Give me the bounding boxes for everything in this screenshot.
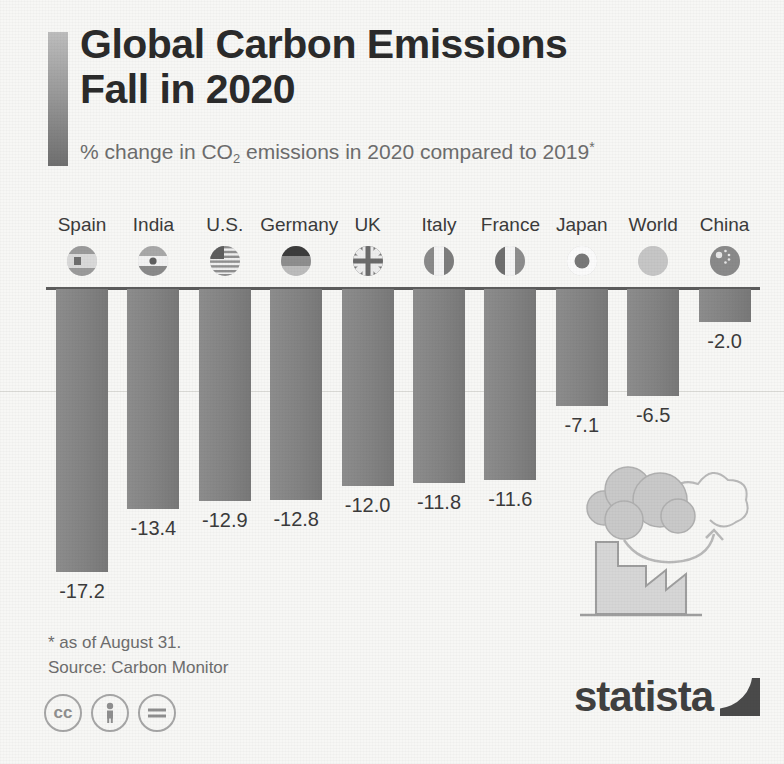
bar[interactable]: [484, 289, 536, 480]
country-label: Spain: [46, 214, 118, 236]
italy-flag-icon: [424, 246, 454, 276]
country-label: Germany: [260, 214, 332, 236]
bar[interactable]: [270, 289, 322, 500]
bar-value-label: -13.4: [117, 517, 189, 540]
bar-value-label: -2.0: [689, 330, 761, 353]
china-flag-icon: [710, 246, 740, 276]
statista-wordmark: statista: [574, 676, 713, 718]
bar-value-label: -17.2: [46, 580, 118, 603]
country-label: Japan: [546, 214, 618, 236]
spain-flag-icon: [67, 246, 97, 276]
footnote-source: Source: Carbon Monitor: [48, 655, 228, 680]
bar[interactable]: [199, 289, 251, 501]
cc-by-person-icon: [91, 694, 129, 732]
japan-flag-icon: [567, 246, 597, 276]
country-label: India: [117, 214, 189, 236]
bar[interactable]: [413, 289, 465, 483]
bar-value-label: -12.8: [260, 508, 332, 531]
bar[interactable]: [56, 289, 108, 572]
bar-value-label: -12.9: [189, 509, 261, 532]
world-globe-icon: [638, 246, 668, 276]
france-flag-icon: [495, 246, 525, 276]
footnote: * as of August 31. Source: Carbon Monito…: [48, 630, 228, 680]
bar-value-label: -12.0: [332, 494, 404, 517]
statista-logo: statista: [574, 676, 760, 718]
country-label: World: [617, 214, 689, 236]
bar[interactable]: [699, 289, 751, 322]
statista-logo-mark: [720, 678, 760, 716]
bar[interactable]: [127, 289, 179, 509]
bar-value-label: -7.1: [546, 414, 618, 437]
country-label: Italy: [403, 214, 475, 236]
germany-flag-icon: [281, 246, 311, 276]
factory-emissions-illustration: [566, 442, 766, 627]
infographic-canvas: Global Carbon Emissions Fall in 2020 % c…: [0, 0, 784, 764]
bar-value-label: -6.5: [617, 404, 689, 427]
cc-nd-equals-icon: [138, 694, 176, 732]
bar[interactable]: [627, 289, 679, 396]
country-label: U.S.: [189, 214, 261, 236]
footnote-asof: * as of August 31.: [48, 630, 228, 655]
us-flag-icon: [210, 246, 240, 276]
uk-flag-icon: [353, 246, 383, 276]
bar[interactable]: [556, 289, 608, 406]
bar-value-label: -11.6: [474, 488, 546, 511]
india-flag-icon: [138, 246, 168, 276]
bar[interactable]: [342, 289, 394, 486]
country-label: China: [689, 214, 761, 236]
country-label: France: [474, 214, 546, 236]
bar-value-label: -11.8: [403, 491, 475, 514]
country-label: UK: [332, 214, 404, 236]
cc-icon: cc: [44, 694, 82, 732]
creative-commons-badges: cc: [44, 694, 176, 732]
